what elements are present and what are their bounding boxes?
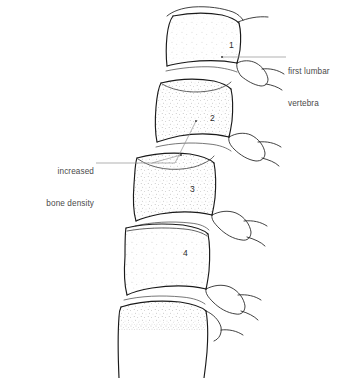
- vertebra-number-1: 1: [229, 40, 234, 50]
- vertebra-number-2: 2: [210, 113, 215, 123]
- label-first-lumbar-line1: first lumbar: [288, 67, 330, 78]
- vertebra-number-3: 3: [190, 184, 195, 194]
- label-increased-bone-density: increased bone density: [8, 146, 94, 230]
- vertebra-number-4: 4: [183, 248, 188, 258]
- label-bone-density-line1: increased: [8, 167, 94, 178]
- label-first-lumbar-line2: vertebra: [288, 99, 330, 110]
- label-first-lumbar-vertebra: first lumbar vertebra: [288, 46, 330, 130]
- spine-illustration: first lumbar vertebra increased bone den…: [0, 0, 351, 378]
- label-bone-density-line2: bone density: [8, 199, 94, 210]
